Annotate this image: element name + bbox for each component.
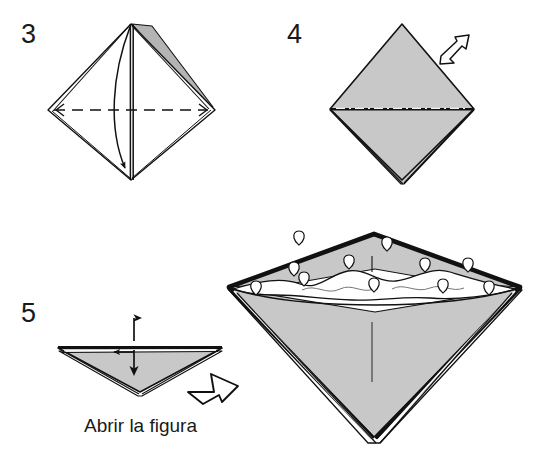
step-4-figure [330, 24, 474, 184]
step-5-top-edge-highlight [64, 350, 216, 351]
instruction-caption: Abrir la figura [84, 416, 197, 435]
step-5-result-hollow-arrow [188, 374, 238, 404]
step-3-diamond-outline [48, 24, 215, 180]
diagram-canvas [0, 0, 549, 467]
step-5-triangle-outline [58, 348, 222, 392]
origami-diagram-page: 3 4 5 Abrir la figura [0, 0, 549, 467]
step-4-open-here-hollow-arrow [440, 35, 469, 64]
step-number-5: 5 [21, 300, 36, 327]
step-number-3: 3 [21, 21, 36, 48]
opened-vessel-figure [229, 231, 522, 443]
step-3-figure [48, 24, 215, 180]
step-number-4: 4 [287, 21, 302, 48]
step-5-figure [58, 318, 238, 404]
rim-mark-1 [294, 231, 305, 245]
